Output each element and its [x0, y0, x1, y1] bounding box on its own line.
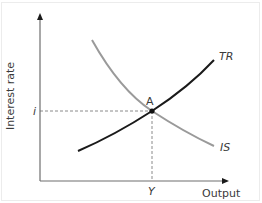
- tr-curve-label: TR: [219, 51, 233, 62]
- x-axis-label: Output: [202, 188, 240, 199]
- x-axis-arrow-icon: [222, 178, 229, 184]
- is-tr-diagram: [0, 0, 262, 203]
- y-axis-label: Interest rate: [5, 62, 16, 130]
- is-curve: [92, 40, 214, 146]
- y-axis-arrow-icon: [37, 13, 43, 20]
- output-tick-label: Y: [148, 186, 155, 197]
- is-curve-label: IS: [220, 142, 230, 153]
- equilibrium-point: [149, 108, 154, 113]
- interest-rate-tick-label: i: [33, 106, 36, 117]
- equilibrium-point-label: A: [146, 96, 154, 107]
